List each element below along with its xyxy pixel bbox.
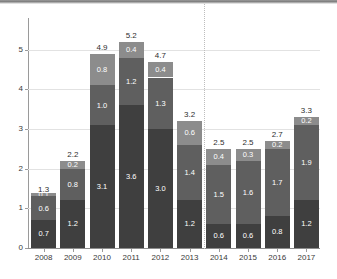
bar-segment[interactable]: 0.6 [206,224,231,248]
bar-segment[interactable]: 0.7 [31,220,56,248]
bar-segment-value-label: 3.6 [126,173,136,181]
y-axis-tick-label: 3 [19,125,23,133]
bar-total-label: 1.3 [31,186,56,194]
x-axis-tick-mark [190,249,191,252]
bar-segment-value-label: 0.8 [272,228,282,236]
bar-segment-value-label: 1.2 [126,78,136,86]
x-axis-tick-label: 2012 [148,254,173,262]
x-axis-tick-label: 2008 [31,254,56,262]
bar-segment-value-label: 0.4 [214,153,224,161]
gridline [28,248,320,249]
bar-segment-value-label: 1.0 [97,102,107,110]
bar-segment-value-label: 1.4 [184,169,194,177]
bar-total-label: 4.7 [148,52,173,60]
x-axis-tick-label: 2011 [119,254,144,262]
bar-segment-value-label: 3.0 [155,185,165,193]
bar-total-label: 4.9 [90,44,115,52]
bar-segment-value-label: 3.1 [97,183,107,191]
x-axis-tick-label: 2017 [294,254,319,262]
x-axis-tick-label: 2015 [236,254,261,262]
x-axis-tick-mark [306,249,307,252]
bar-segment[interactable]: 1.9 [294,125,319,200]
y-axis-tick-mark [25,208,28,209]
bar-total-label: 3.2 [177,111,202,119]
bar-total-label: 3.3 [294,107,319,115]
y-axis-tick-label: 2 [19,165,23,173]
plot-area: 012345 0.70.60.11.31.20.80.22.23.11.00.8… [28,18,320,248]
gridline [28,50,320,51]
bar-segment-value-label: 1.5 [214,191,224,199]
bar-segment-value-label: 1.7 [272,179,282,187]
bar-segment[interactable]: 3.1 [90,125,115,248]
bar-segment-value-label: 0.8 [97,66,107,74]
bar-segment[interactable]: 1.6 [236,161,261,224]
bar-segment-value-label: 0.6 [38,205,48,213]
y-axis-tick-mark [25,50,28,51]
bar-segment-value-label: 1.2 [301,220,311,228]
bar-segment[interactable]: 3.6 [119,105,144,248]
bar-segment[interactable]: 0.4 [119,42,144,58]
x-axis-tick-label: 2013 [177,254,202,262]
x-axis-tick-mark [248,249,249,252]
bar-segment[interactable]: 0.4 [148,62,173,78]
bar-segment-value-label: 0.7 [38,230,48,238]
bar-segment[interactable]: 0.8 [60,169,85,201]
bar-segment[interactable]: 0.3 [236,149,261,161]
forecast-divider-line [204,4,205,249]
bar-total-label: 2.2 [60,151,85,159]
bar-segment-value-label: 0.2 [301,117,311,125]
x-axis-tick-mark [219,249,220,252]
bar-total-label: 2.7 [265,131,290,139]
x-axis-tick-mark [102,249,103,252]
x-axis-tick-mark [277,249,278,252]
y-axis-tick-label: 4 [19,85,23,93]
bar-segment[interactable]: 0.2 [294,117,319,125]
bar-total-label: 2.5 [206,139,231,147]
bar-segment[interactable]: 1.2 [177,200,202,248]
bar-segment-value-label: 0.6 [184,129,194,137]
bar-segment[interactable]: 0.8 [265,216,290,248]
y-axis-tick-label: 0 [19,244,23,252]
bar-segment[interactable]: 0.2 [265,141,290,149]
bar-segment-value-label: 0.4 [155,66,165,74]
bar-segment[interactable]: 0.4 [206,149,231,165]
bar-segment-value-label: 0.2 [272,141,282,149]
y-axis-tick-mark [25,248,28,249]
y-axis-tick-mark [25,169,28,170]
bar-segment-value-label: 0.3 [243,151,253,159]
x-axis-tick-mark [44,249,45,252]
bar-segment[interactable]: 0.2 [60,161,85,169]
bar-segment[interactable]: 1.3 [148,78,173,130]
bar-segment-value-label: 1.3 [155,100,165,108]
x-axis-tick-mark [160,249,161,252]
bar-total-label: 5.2 [119,32,144,40]
gridline [28,89,320,90]
bar-segment-value-label: 0.2 [68,161,78,169]
bar-segment-value-label: 0.6 [243,232,253,240]
x-axis-tick-mark [73,249,74,252]
bar-segment[interactable]: 1.0 [90,85,115,125]
bar-segment[interactable]: 1.2 [119,58,144,106]
bar-segment[interactable]: 1.2 [60,200,85,248]
bar-segment-value-label: 0.6 [214,232,224,240]
bar-segment[interactable]: 1.7 [265,149,290,216]
bar-segment[interactable]: 0.6 [236,224,261,248]
bar-segment-value-label: 1.2 [184,220,194,228]
bar-segment-value-label: 1.6 [243,189,253,197]
bar-segment[interactable]: 3.0 [148,129,173,248]
bar-segment-value-label: 1.2 [68,220,78,228]
x-axis-tick-label: 2010 [90,254,115,262]
bar-segment[interactable]: 1.2 [294,200,319,248]
bar-segment[interactable]: 1.5 [206,165,231,224]
x-axis-tick-label: 2016 [265,254,290,262]
x-axis-tick-mark [131,249,132,252]
x-axis-tick-label: 2014 [206,254,231,262]
y-axis-tick-label: 5 [19,46,23,54]
bar-segment-value-label: 1.9 [301,159,311,167]
y-axis-tick-mark [25,89,28,90]
bar-segment[interactable]: 0.8 [90,54,115,86]
bar-segment[interactable]: 0.6 [177,121,202,145]
bar-segment[interactable]: 0.6 [31,196,56,220]
bar-segment[interactable]: 1.4 [177,145,202,201]
y-axis-tick-mark [25,129,28,130]
